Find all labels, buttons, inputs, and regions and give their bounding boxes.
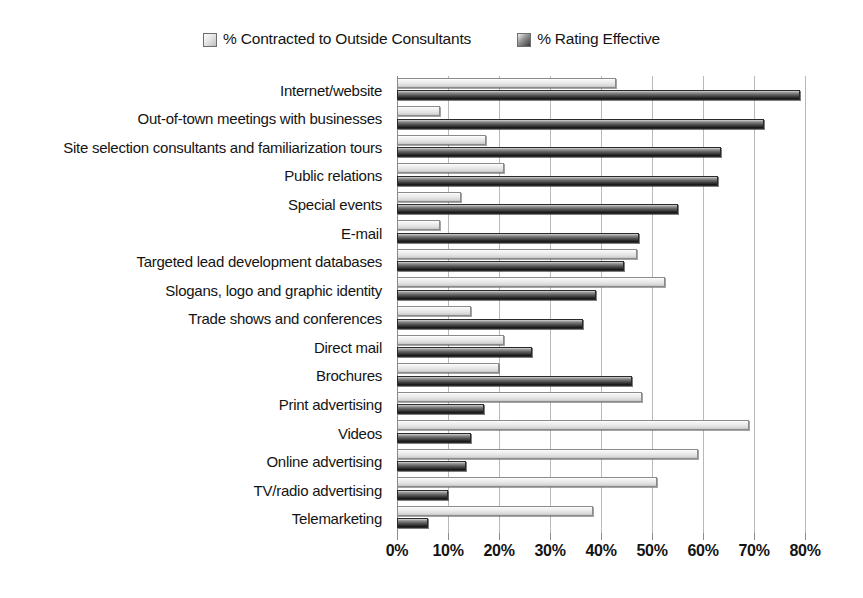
bar-contracted <box>397 135 486 145</box>
legend-swatch-rating-effective-icon <box>517 33 531 47</box>
bar-rating-effective <box>397 204 678 214</box>
y-axis-label: Public relations <box>284 162 382 191</box>
bar-group <box>397 305 805 334</box>
y-axis-label: E-mail <box>341 219 382 248</box>
bar-contracted <box>397 249 637 259</box>
bar-group <box>397 247 805 276</box>
bar-rating-effective <box>397 518 428 528</box>
x-axis-label: 30% <box>534 542 565 560</box>
legend-item-rating-effective: % Rating Effective <box>517 30 660 48</box>
x-axis-label: 60% <box>687 542 718 560</box>
y-axis-label: Trade shows and conferences <box>188 305 382 334</box>
y-axis-label: Print advertising <box>279 390 382 419</box>
bar-rating-effective <box>397 233 639 243</box>
bar-rating-effective <box>397 347 532 357</box>
x-tick-mark <box>550 533 551 540</box>
bar-contracted <box>397 163 504 173</box>
x-axis-label: 80% <box>789 542 820 560</box>
x-tick-mark <box>448 533 449 540</box>
bar-contracted <box>397 277 665 287</box>
y-axis-label: Site selection consultants and familiari… <box>63 133 382 162</box>
x-axis-label: 50% <box>636 542 667 560</box>
bar-group <box>397 333 805 362</box>
bar-rating-effective <box>397 433 471 443</box>
bar-rating-effective <box>397 376 632 386</box>
chart-legend: % Contracted to Outside Consultants % Ra… <box>0 30 863 48</box>
x-axis-label: 10% <box>432 542 463 560</box>
bar-contracted <box>397 220 440 230</box>
legend-label-rating-effective: % Rating Effective <box>537 30 660 48</box>
y-axis-label: Online advertising <box>266 447 382 476</box>
bar-rating-effective <box>397 319 583 329</box>
bar-rating-effective <box>397 147 721 157</box>
x-axis-label: 0% <box>386 542 409 560</box>
x-tick-mark <box>703 533 704 540</box>
y-axis-label: Videos <box>338 419 382 448</box>
legend-label-contracted: % Contracted to Outside Consultants <box>223 30 471 48</box>
y-axis-label: Telemarketing <box>292 504 382 533</box>
bar-contracted <box>397 449 698 459</box>
bar-contracted <box>397 392 642 402</box>
bar-group <box>397 190 805 219</box>
y-axis-label: Brochures <box>316 362 382 391</box>
y-axis-label: TV/radio advertising <box>254 476 382 505</box>
x-axis-label: 40% <box>585 542 616 560</box>
y-axis-label: Targeted lead development databases <box>136 247 382 276</box>
bar-contracted <box>397 192 461 202</box>
x-tick-mark <box>499 533 500 540</box>
bar-group <box>397 219 805 248</box>
bar-group <box>397 276 805 305</box>
bar-rating-effective <box>397 119 764 129</box>
bar-group <box>397 133 805 162</box>
y-axis-category-labels: Internet/websiteOut-of-town meetings wit… <box>0 76 390 533</box>
plot-area <box>397 76 805 533</box>
bar-rating-effective <box>397 490 448 500</box>
gridline-80 <box>805 76 806 533</box>
bar-contracted <box>397 306 471 316</box>
y-axis-label: Slogans, logo and graphic identity <box>165 276 382 305</box>
y-axis-label: Direct mail <box>314 333 382 362</box>
y-axis-label: Internet/website <box>280 76 382 105</box>
bar-rating-effective <box>397 176 718 186</box>
legend-swatch-contracted-icon <box>203 33 217 47</box>
bar-group <box>397 105 805 134</box>
x-axis-tick-labels: 0%10%20%30%40%50%60%70%80% <box>397 542 805 568</box>
bar-contracted <box>397 363 499 373</box>
bar-contracted <box>397 335 504 345</box>
bar-rating-effective <box>397 461 466 471</box>
x-tick-mark <box>601 533 602 540</box>
bar-rating-effective <box>397 90 800 100</box>
bar-group <box>397 476 805 505</box>
bar-contracted <box>397 506 593 516</box>
bar-rating-effective <box>397 404 484 414</box>
bar-group <box>397 390 805 419</box>
bar-group <box>397 419 805 448</box>
bar-rating-effective <box>397 290 596 300</box>
y-axis-label: Special events <box>288 190 382 219</box>
bar-contracted <box>397 78 616 88</box>
bar-contracted <box>397 477 657 487</box>
legend-item-contracted: % Contracted to Outside Consultants <box>203 30 471 48</box>
bar-rows <box>397 76 805 533</box>
x-tick-mark <box>754 533 755 540</box>
bar-group <box>397 504 805 533</box>
bar-group <box>397 447 805 476</box>
x-tick-mark <box>397 533 398 540</box>
bar-contracted <box>397 420 749 430</box>
x-axis-label: 70% <box>738 542 769 560</box>
bar-group <box>397 76 805 105</box>
x-tick-mark <box>652 533 653 540</box>
bar-contracted <box>397 106 440 116</box>
bar-rating-effective <box>397 261 624 271</box>
y-axis-label: Out-of-town meetings with businesses <box>138 105 382 134</box>
bar-chart: % Contracted to Outside Consultants % Ra… <box>0 0 863 598</box>
bar-group <box>397 162 805 191</box>
bar-group <box>397 362 805 391</box>
x-tick-mark <box>805 533 806 540</box>
x-axis-label: 20% <box>483 542 514 560</box>
